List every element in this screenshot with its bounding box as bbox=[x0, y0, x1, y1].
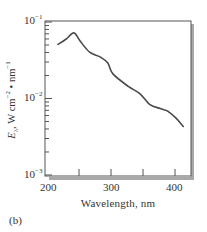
ylabel-symbol: E bbox=[6, 132, 17, 138]
y-tick-label-1e-3: 10−3 bbox=[24, 167, 42, 180]
tick-exp: −3 bbox=[35, 167, 42, 175]
y-tick-label-1e-2: 10−2 bbox=[24, 90, 42, 103]
ylabel-subscript: λ bbox=[12, 129, 20, 132]
ylabel-unit2: • nm bbox=[6, 69, 17, 91]
tick-base: 10 bbox=[24, 91, 35, 103]
panel-label: (b) bbox=[9, 214, 22, 226]
tick-base: 10 bbox=[24, 168, 35, 180]
tick-exp: −1 bbox=[35, 13, 42, 21]
plot-frame bbox=[45, 21, 191, 176]
tick-exp: −2 bbox=[35, 90, 42, 98]
x-axis-label: Wavelength, nm bbox=[81, 197, 156, 209]
ylabel-exp1: −2 bbox=[4, 91, 12, 98]
x-tick-label-200: 200 bbox=[40, 181, 57, 193]
tick-base: 10 bbox=[24, 14, 35, 26]
x-tick-label-300: 300 bbox=[103, 181, 120, 193]
ylabel-unit1: , W cm bbox=[6, 98, 17, 128]
x-tick-label-400: 400 bbox=[166, 181, 183, 193]
frame-shadow-bottom bbox=[49, 177, 194, 180]
y-tick-label-1e-1: 10−1 bbox=[24, 13, 42, 26]
y-axis-label: Eλ, W cm−2 • nm−1 bbox=[4, 61, 20, 139]
ylabel-exp2: −1 bbox=[4, 61, 12, 68]
